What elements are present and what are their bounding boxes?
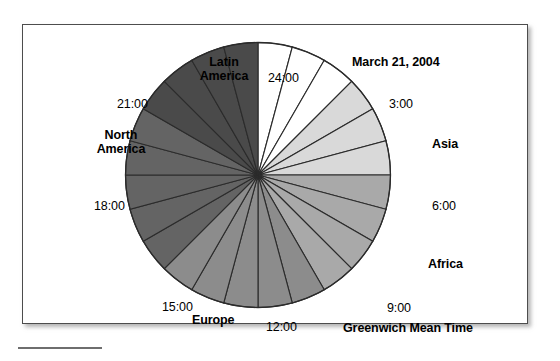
- tick-label-24: 24:00: [268, 71, 299, 85]
- figure-frame: March 21, 2004 Latin America North Ameri…: [22, 24, 528, 324]
- tick-label-21: 21:00: [117, 97, 148, 111]
- region-label-latin-america-line1: Latin: [191, 55, 257, 69]
- tick-label-3: 3:00: [389, 97, 413, 111]
- tick-label-15: 15:00: [162, 300, 193, 314]
- tick-label-9: 9:00: [387, 301, 411, 315]
- footer-rule: [18, 347, 102, 349]
- region-label-africa: Africa: [428, 257, 463, 271]
- tick-label-18: 18:00: [94, 199, 125, 213]
- region-label-north-america: North America: [83, 128, 159, 156]
- pie-slice-group: [126, 43, 391, 308]
- axis-caption-greenwich-mean-time: Greenwich Mean Time: [343, 321, 473, 335]
- region-label-europe: Europe: [192, 313, 234, 327]
- region-label-latin-america: Latin America: [191, 55, 257, 83]
- region-label-north-america-line2: America: [83, 142, 159, 156]
- pie-chart: March 21, 2004 Latin America North Ameri…: [23, 25, 529, 325]
- tick-label-6: 6:00: [432, 199, 456, 213]
- tick-label-12: 12:00: [266, 320, 297, 334]
- chart-title-date: March 21, 2004: [352, 55, 440, 69]
- region-label-asia: Asia: [432, 137, 458, 151]
- region-label-north-america-line1: North: [83, 128, 159, 142]
- region-label-latin-america-line2: America: [191, 69, 257, 83]
- pie-svg: [122, 39, 394, 311]
